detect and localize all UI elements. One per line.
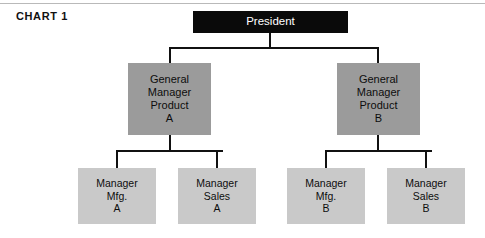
node-mgr-mfg-b-line-1: Manager: [305, 177, 346, 189]
node-mgr-sales-b-line-1: Manager: [405, 177, 446, 189]
node-gm-a-line-4: A: [166, 112, 173, 125]
node-gm-a-line-3: Product: [151, 99, 189, 112]
connector-gm-b-bus: [325, 150, 432, 152]
chart-title-label: CHART 1: [16, 10, 68, 22]
node-president[interactable]: President: [193, 11, 348, 33]
node-gm-b-line-1: General: [359, 73, 398, 86]
page-top-rule: [0, 3, 485, 4]
org-chart-canvas: CHART 1 President General Manager Produc…: [0, 0, 485, 238]
connector-president-to-gm-a: [169, 47, 171, 63]
node-gm-b-line-4: B: [375, 112, 382, 125]
node-general-manager-product-b[interactable]: General Manager Product B: [337, 63, 420, 135]
node-mgr-mfg-b-line-2: Mfg.: [316, 190, 336, 202]
node-manager-mfg-b[interactable]: Manager Mfg. B: [287, 168, 365, 224]
node-president-line-1: President: [246, 15, 295, 29]
node-mgr-mfg-a-line-3: A: [113, 202, 120, 214]
node-gm-a-line-1: General: [150, 73, 189, 86]
connector-gm-a-to-mgr-mfg-a: [116, 150, 118, 168]
node-gm-a-line-2: Manager: [148, 86, 191, 99]
node-mgr-sales-a-line-2: Sales: [204, 190, 230, 202]
node-general-manager-product-a[interactable]: General Manager Product A: [128, 63, 211, 135]
node-manager-sales-a[interactable]: Manager Sales A: [178, 168, 256, 224]
node-mgr-sales-a-line-3: A: [213, 202, 220, 214]
node-gm-b-line-2: Manager: [357, 86, 400, 99]
connector-president-to-gm-b: [377, 47, 379, 63]
node-mgr-sales-a-line-1: Manager: [196, 177, 237, 189]
node-mgr-mfg-a-line-2: Mfg.: [107, 190, 127, 202]
connector-gm-b-to-mgr-sales-b: [425, 150, 427, 168]
connector-gm-b-to-mgr-mfg-b: [325, 150, 327, 168]
node-manager-mfg-a[interactable]: Manager Mfg. A: [78, 168, 156, 224]
connector-president-bus: [169, 47, 379, 49]
node-mgr-mfg-b-line-3: B: [322, 202, 329, 214]
node-mgr-mfg-a-line-1: Manager: [96, 177, 137, 189]
node-mgr-sales-b-line-2: Sales: [413, 190, 439, 202]
node-manager-sales-b[interactable]: Manager Sales B: [387, 168, 465, 224]
connector-gm-a-bus: [116, 150, 223, 152]
connector-gm-a-to-mgr-sales-a: [216, 150, 218, 168]
node-mgr-sales-b-line-3: B: [422, 202, 429, 214]
node-gm-b-line-3: Product: [360, 99, 398, 112]
